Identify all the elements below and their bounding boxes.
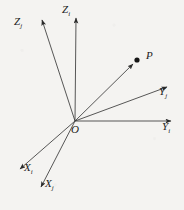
axis-label-y-j: Yj: [159, 86, 167, 100]
coordinate-frame-diagram: Zi Zj Yi Yj Xi Xj P O: [0, 0, 184, 210]
axis-label-y-i: Yi: [162, 121, 170, 135]
axis-line-z-j: [42, 20, 75, 121]
axis-label-x-j: Xj: [45, 178, 54, 192]
axis-label-x-i: Xi: [24, 162, 33, 176]
axis-label-z-j: Zj: [14, 16, 22, 30]
axis-line-z-i: [75, 18, 76, 121]
ray-line-op: [75, 64, 133, 121]
point-p-marker: [134, 57, 139, 62]
axis-label-z-i: Zi: [62, 4, 70, 18]
point-label-p: P: [146, 50, 153, 61]
axis-line-y-j: [75, 87, 167, 121]
diagram-canvas: [0, 0, 184, 210]
origin-label-o: O: [71, 124, 79, 135]
